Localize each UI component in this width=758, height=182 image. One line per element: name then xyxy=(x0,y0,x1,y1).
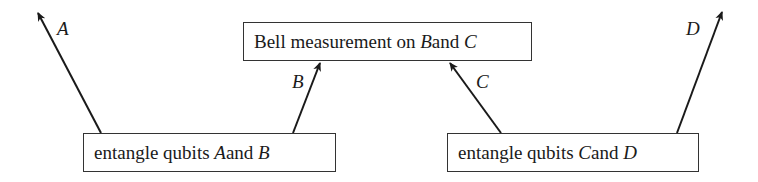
entangle-ab-var-b: B xyxy=(258,142,270,164)
bell-measurement-box: Bell measurement on Band C xyxy=(243,22,532,61)
entangle-cd-box: entangle qubits Cand D xyxy=(447,133,699,172)
entangle-cd-text: entangle qubits xyxy=(458,142,574,164)
entangle-ab-box: entangle qubits Aand B xyxy=(83,133,336,172)
entangle-cd-var-d: D xyxy=(623,142,637,164)
arrow-a xyxy=(38,13,101,133)
bell-var-b: B xyxy=(420,31,432,53)
entangle-ab-and: and xyxy=(226,142,253,164)
entangle-ab-var-a: A xyxy=(214,142,226,164)
entangle-ab-text: entangle qubits xyxy=(94,142,210,164)
entangle-cd-var-c: C xyxy=(578,142,591,164)
label-c: C xyxy=(476,72,489,91)
entangle-cd-and: and xyxy=(591,142,618,164)
bell-text: Bell measurement on xyxy=(254,31,415,53)
label-b: B xyxy=(292,72,304,91)
bell-var-c: C xyxy=(464,31,477,53)
bell-and: and xyxy=(432,31,459,53)
label-a: A xyxy=(57,19,69,38)
label-d: D xyxy=(686,19,700,38)
